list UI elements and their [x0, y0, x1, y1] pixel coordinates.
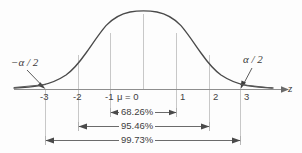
- z-axis-label: z: [288, 83, 292, 94]
- tick-label-minus2: -2: [73, 92, 81, 102]
- interval-label-one-sigma: 68.26%: [119, 107, 155, 117]
- tick-label-minus3: -3: [40, 92, 48, 102]
- tick-label-plus1: 1: [180, 92, 185, 102]
- right-tail-pointer: [240, 68, 272, 89]
- normal-distribution-figure: −α / 2 α / 2 z -3 -2 -1 μ = 0 1 2 3 68.2…: [0, 0, 302, 153]
- interval-label-three-sigma: 99.73%: [119, 135, 155, 145]
- left-tail-pointer: [14, 70, 46, 89]
- alpha-right-label: α / 2: [243, 54, 263, 65]
- alpha-left-label: −α / 2: [11, 57, 38, 68]
- tick-label-plus2: 2: [213, 92, 218, 102]
- tick-label-minus1: -1: [105, 92, 113, 102]
- interval-label-two-sigma: 95.46%: [119, 121, 155, 131]
- mean-label: μ = 0: [117, 92, 139, 102]
- tick-label-plus3: 3: [244, 92, 249, 102]
